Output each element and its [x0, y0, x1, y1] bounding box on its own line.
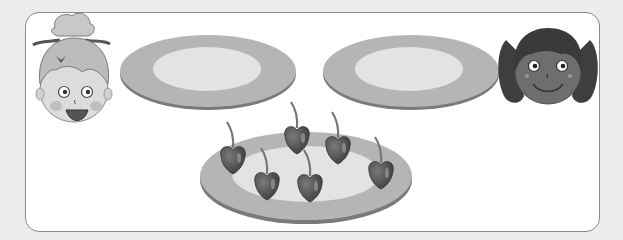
empty-plate-left [120, 35, 296, 110]
girl-with-bun [33, 13, 112, 122]
cherry-icon [326, 112, 351, 164]
girl-with-pigtails [498, 28, 598, 104]
empty-plate-right [323, 35, 499, 110]
cherry-icon [285, 102, 310, 154]
hair-bun-icon [52, 13, 95, 36]
cherry-icon [221, 122, 246, 174]
illustration [0, 0, 623, 240]
